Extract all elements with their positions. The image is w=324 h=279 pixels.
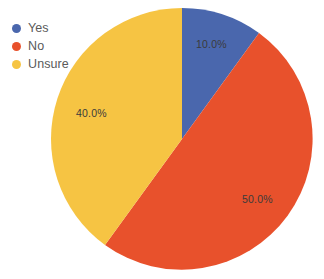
legend-swatch-no-icon — [12, 42, 21, 51]
legend-swatch-yes-icon — [12, 24, 21, 33]
legend-label-yes: Yes — [28, 19, 49, 37]
legend-label-unsure: Unsure — [28, 55, 69, 73]
legend-item-no[interactable]: No — [12, 37, 69, 55]
slice-data-label-no: 50.0% — [242, 193, 273, 205]
chart-legend: Yes No Unsure — [12, 19, 69, 73]
slice-data-label-unsure: 40.0% — [76, 107, 107, 119]
legend-item-yes[interactable]: Yes — [12, 19, 69, 37]
legend-swatch-unsure-icon — [12, 60, 21, 69]
slice-data-label-yes: 10.0% — [196, 38, 227, 50]
legend-item-unsure[interactable]: Unsure — [12, 55, 69, 73]
legend-label-no: No — [28, 37, 44, 55]
pie-slice-group — [51, 8, 313, 270]
pie-chart: Yes No Unsure 10.0% 40.0% 50.0% — [0, 0, 324, 279]
